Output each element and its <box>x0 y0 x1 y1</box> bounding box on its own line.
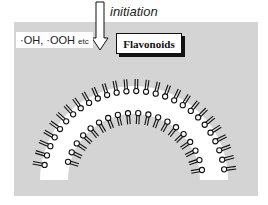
radicals-etc: etc <box>78 37 89 46</box>
radicals-label: ·OH, ·OOH etc <box>16 32 93 48</box>
initiation-arrow-icon <box>0 0 268 205</box>
initiation-label: initiation <box>110 4 158 19</box>
radicals-text: ·OH, ·OOH <box>20 34 75 46</box>
lipid-bilayer-diagram: initiation ·OH, ·OOH etc Flavonoids <box>0 0 268 205</box>
flavonoids-box: Flavonoids <box>116 33 182 54</box>
